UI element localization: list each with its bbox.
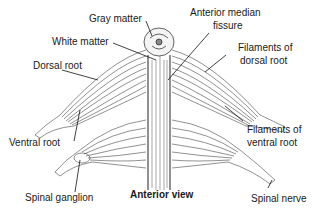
- label-anterior-median-fissure-line2: fissure: [213, 20, 242, 31]
- label-white-matter: White matter: [52, 36, 109, 47]
- spinal-cord-illustration: [0, 0, 319, 211]
- diagram-caption: Anterior view: [130, 189, 193, 200]
- label-dorsal-root: Dorsal root: [33, 60, 82, 71]
- label-gray-matter: Gray matter: [89, 13, 142, 24]
- label-filaments-dorsal-line1: Filaments of: [238, 42, 292, 53]
- label-filaments-ventral-line1: Filaments of: [247, 124, 301, 135]
- label-spinal-ganglion: Spinal ganglion: [25, 192, 93, 203]
- label-filaments-dorsal-line2: dorsal root: [240, 55, 287, 66]
- spinal-cord: [148, 55, 170, 190]
- label-ventral-root: Ventral root: [9, 137, 60, 148]
- ventral-root-left: [55, 120, 146, 176]
- label-filaments-ventral-line2: ventral root: [247, 137, 297, 148]
- label-anterior-median-fissure-line1: Anterior median: [190, 7, 261, 18]
- label-spinal-nerve: Spinal nerve: [251, 193, 307, 204]
